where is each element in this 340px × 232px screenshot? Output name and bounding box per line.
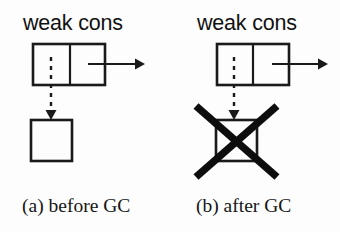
panel-b-weak-pointer [229, 57, 240, 120]
panel-a-weak-pointer [46, 57, 57, 120]
panel-a-target-object [31, 120, 72, 161]
figure-canvas: weak cons (a) before GC weak cons [0, 0, 340, 232]
panel-b-heading: weak cons [196, 11, 297, 35]
panel-b-collected-cross-icon [196, 106, 277, 177]
diagram-svg: weak cons (a) before GC weak cons [0, 0, 340, 232]
panel-a-weak-pointer-arrowhead [46, 110, 57, 120]
panel-a-caption: (a) before GC [22, 195, 130, 217]
panel-b-cdr-arrow [272, 59, 328, 70]
panel-a-cdr-arrow [88, 59, 145, 70]
panel-a-heading: weak cons [22, 11, 123, 35]
panel-b-cdr-arrowhead [318, 59, 328, 70]
panel-a-cdr-arrowhead [135, 59, 145, 70]
panel-b-weak-pointer-arrowhead [229, 110, 240, 120]
panel-b-caption: (b) after GC [196, 195, 291, 217]
panel-a-group: weak cons (a) before GC [22, 11, 145, 217]
panel-b-group: weak cons (b) after GC [196, 11, 328, 217]
